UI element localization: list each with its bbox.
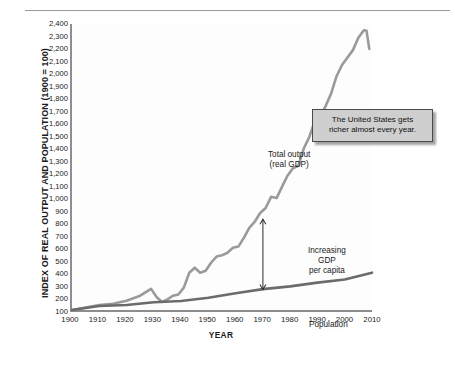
annotation-increasing-gdp-per-capita: Increasing GDP per capita <box>308 246 346 276</box>
y-tick-label: 2,200 <box>49 45 68 53</box>
callout-box: The United States gets richer almost eve… <box>312 109 433 142</box>
x-axis-title: YEAR <box>70 330 372 340</box>
x-tick-label: 2010 <box>363 315 380 324</box>
y-tick-label: 300 <box>55 283 68 291</box>
x-tick-label: 2000 <box>336 315 353 324</box>
y-tick-label: 1,500 <box>49 133 68 141</box>
y-tick-label: 400 <box>55 271 68 279</box>
y-tick-label: 1,200 <box>49 170 68 178</box>
annotation-total-output-line1: Total output <box>268 150 310 160</box>
y-tick-label: 700 <box>55 233 68 241</box>
annotation-gdp-pc-line1: Increasing <box>308 246 346 256</box>
callout-line1: The United States gets <box>317 115 428 125</box>
y-tick-label: 500 <box>55 258 68 266</box>
x-tick-label: 1940 <box>171 315 188 324</box>
y-tick-label: 1,900 <box>49 83 68 91</box>
x-tick-label: 1910 <box>89 315 106 324</box>
annotation-gdp-pc-line3: per capita <box>308 266 346 276</box>
y-tick-label: 1,400 <box>49 145 68 153</box>
callout-line2: richer almost every year. <box>317 125 428 135</box>
y-tick-label: 2,300 <box>49 33 68 41</box>
x-tick-label: 1950 <box>199 315 216 324</box>
y-tick-label: 2,400 <box>49 20 68 28</box>
y-tick-label: 2,000 <box>49 70 68 78</box>
y-tick-label: 200 <box>55 296 68 304</box>
series-line-population <box>72 273 372 310</box>
y-tick-label: 900 <box>55 208 68 216</box>
arrow-group <box>260 219 266 289</box>
y-tick-label: 1,000 <box>49 196 68 204</box>
y-tick-label: 1,700 <box>49 108 68 116</box>
annotation-total-output-line2: (real GDP) <box>268 160 310 170</box>
annotation-gdp-pc-line2: GDP <box>308 256 346 266</box>
top-divider-rule <box>25 10 450 11</box>
x-axis-tick-labels: 1900191019201930194019501960197019801990… <box>70 315 372 327</box>
annotation-total-output: Total output (real GDP) <box>268 150 310 170</box>
plot-area: Total output (real GDP) Increasing GDP p… <box>70 24 372 312</box>
x-tick-label: 1990 <box>308 315 325 324</box>
x-tick-label: 1970 <box>253 315 270 324</box>
y-tick-label: 1,100 <box>49 183 68 191</box>
y-tick-label: 1,600 <box>49 120 68 128</box>
y-tick-label: 600 <box>55 246 68 254</box>
y-tick-label: 2,100 <box>49 58 68 66</box>
x-tick-label: 1960 <box>226 315 243 324</box>
x-tick-label: 1900 <box>61 315 78 324</box>
y-tick-label: 1,300 <box>49 158 68 166</box>
y-tick-label: 1,800 <box>49 95 68 103</box>
chart-figure: INDEX OF REAL OUTPUT AND POPULATION (190… <box>0 0 455 369</box>
y-axis-tick-labels: 1002003004005006007008009001,0001,1001,2… <box>30 22 68 317</box>
x-tick-label: 1920 <box>116 315 133 324</box>
x-tick-label: 1930 <box>144 315 161 324</box>
y-tick-label: 800 <box>55 221 68 229</box>
x-tick-label: 1980 <box>281 315 298 324</box>
